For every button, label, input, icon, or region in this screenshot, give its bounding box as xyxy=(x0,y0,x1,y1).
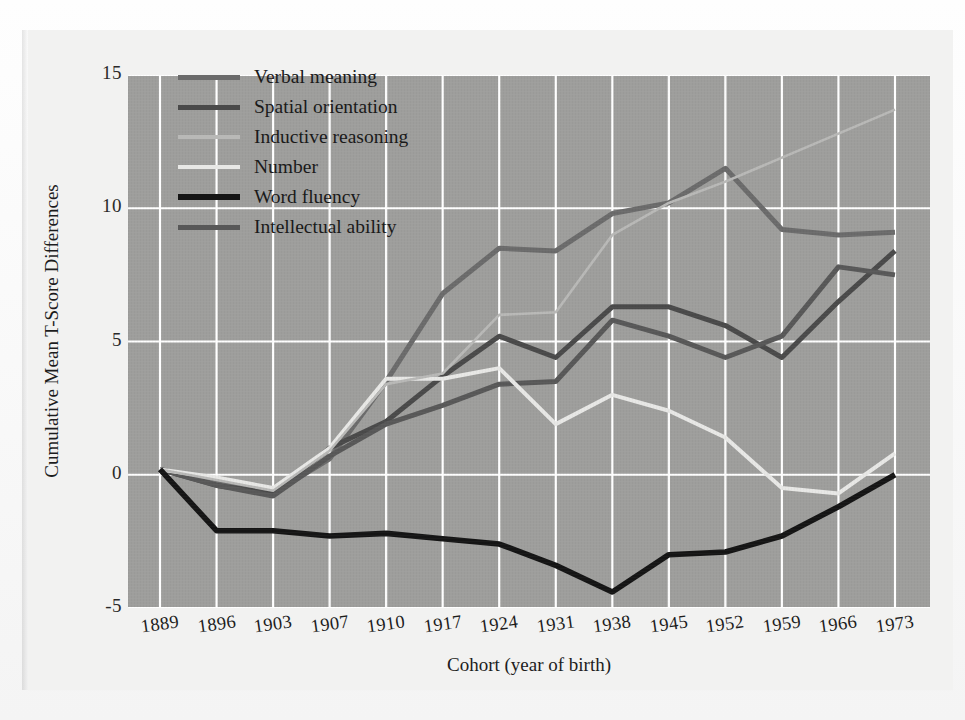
legend-item: Verbal meaning xyxy=(178,62,458,92)
legend-item-label: Inductive reasoning xyxy=(254,126,408,148)
x-tick-label: 1952 xyxy=(705,611,746,637)
legend-swatch-line-icon xyxy=(178,75,240,80)
x-tick-label: 1924 xyxy=(479,611,520,637)
chart-legend: Verbal meaningSpatial orientationInducti… xyxy=(178,62,458,242)
legend-item-label: Verbal meaning xyxy=(254,66,377,88)
series-line-spatial-orientation xyxy=(160,251,895,494)
y-tick-label: 10 xyxy=(76,195,122,217)
legend-item: Inductive reasoning xyxy=(178,122,458,152)
series-line-intellectual-ability xyxy=(160,267,895,496)
plot-area: Verbal meaningSpatial orientationInducti… xyxy=(128,75,930,608)
y-tick-label: 0 xyxy=(76,462,122,484)
legend-swatch-line-icon xyxy=(178,135,240,139)
legend-swatch-line-icon xyxy=(178,165,240,169)
x-tick-label: 1917 xyxy=(422,611,463,637)
legend-item-label: Number xyxy=(254,156,318,178)
legend-item-label: Word fluency xyxy=(254,186,360,208)
x-tick-label-group: 1889189619031907191019171924193119381945… xyxy=(0,614,965,654)
legend-item: Spatial orientation xyxy=(178,92,458,122)
legend-swatch-line-icon xyxy=(178,194,240,200)
y-tick-label: 5 xyxy=(76,329,122,351)
x-tick-label: 1907 xyxy=(309,611,350,637)
x-tick-label: 1966 xyxy=(818,611,859,637)
x-tick-label: 1896 xyxy=(196,611,237,637)
figure-page: Cumulative Mean T-Score Differences 1510… xyxy=(0,0,965,720)
legend-item: Number xyxy=(178,152,458,182)
y-tick-label: 15 xyxy=(76,62,122,84)
legend-swatch-line-icon xyxy=(178,105,240,110)
legend-item-label: Spatial orientation xyxy=(254,96,398,118)
x-tick-label: 1931 xyxy=(535,611,576,637)
x-tick-label: 1945 xyxy=(648,611,689,637)
legend-item-label: Intellectual ability xyxy=(254,216,396,238)
legend-item: Word fluency xyxy=(178,182,458,212)
x-tick-label: 1889 xyxy=(140,611,181,637)
x-tick-label: 1938 xyxy=(592,611,633,637)
x-axis-label: Cohort (year of birth) xyxy=(128,654,930,676)
x-tick-label: 1910 xyxy=(366,611,407,637)
x-tick-label: 1973 xyxy=(875,611,916,637)
x-tick-label: 1959 xyxy=(762,611,803,637)
y-axis-label: Cumulative Mean T-Score Differences xyxy=(41,71,63,591)
y-tick-label-group: 151050-5 xyxy=(72,0,122,720)
x-tick-label: 1903 xyxy=(253,611,294,637)
legend-item: Intellectual ability xyxy=(178,212,458,242)
legend-swatch-line-icon xyxy=(178,225,240,230)
